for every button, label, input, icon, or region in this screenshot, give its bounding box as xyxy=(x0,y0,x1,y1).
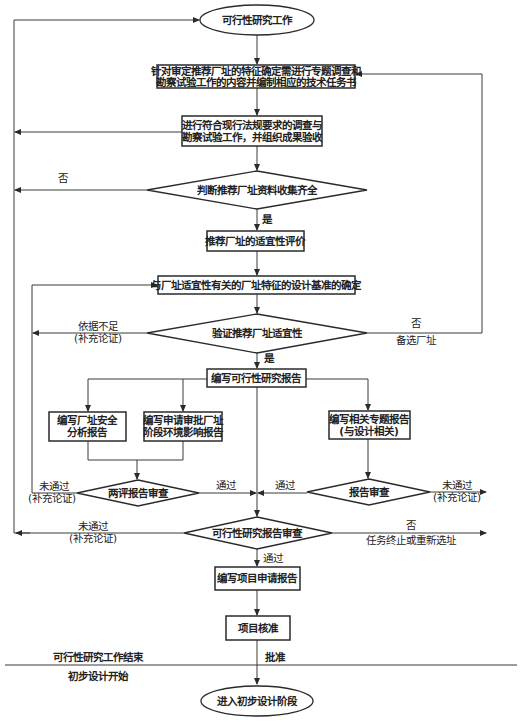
decision5-no-label: 否 xyxy=(406,519,417,531)
svg-text:两评报告审查: 两评报告审查 xyxy=(108,487,169,499)
svg-text:勘察试验工作，并组织成果验收: 勘察试验工作，并组织成果验收 xyxy=(182,131,323,143)
step1-box: 针对审定推荐厂址的特征确定需进行专题调查和 勘察试验工作的内容并编制相应的技术任… xyxy=(150,65,361,88)
svg-text:推荐厂址的适宜性评价: 推荐厂址的适宜性评价 xyxy=(205,235,306,247)
svg-text:可行性研究报告审查: 可行性研究报告审查 xyxy=(212,527,303,539)
svg-text:任务终止或重新选址: 任务终止或重新选址 xyxy=(366,534,457,546)
decision4-diamond: 报告审查 xyxy=(307,479,430,505)
decision2-diamond: 验证推荐厂址适宜性 xyxy=(147,314,367,353)
svg-text:与厂址适宜性有关的厂址特征的设计基准的确定: 与厂址适宜性有关的厂址特征的设计基准的确定 xyxy=(151,279,362,291)
decision1-no-label: 否 xyxy=(58,172,69,184)
svg-text:勘察试验工作的内容并编制相应的技术任务书: 勘察试验工作的内容并编制相应的技术任务书 xyxy=(156,76,357,88)
flowchart: 可行性研究工作 针对审定推荐厂址的特征确定需进行专题调查和 勘察试验工作的内容并… xyxy=(0,0,520,728)
decision2-right-label: 否 xyxy=(411,317,422,329)
step5-box: 编写可行性研究报告 xyxy=(207,369,306,387)
step7-box: 编写申请审批厂址 阶段环境影响报告 xyxy=(143,412,224,441)
svg-text:判断推荐厂址资料收集齐全: 判断推荐厂址资料收集齐全 xyxy=(197,184,318,196)
svg-text:验证推荐厂址适宜性: 验证推荐厂址适宜性 xyxy=(212,327,303,339)
step9-box: 编写项目申请报告 xyxy=(215,567,300,590)
decision1-yes-label: 是 xyxy=(261,213,273,225)
decision1-diamond: 判断推荐厂址资料收集齐全 xyxy=(147,171,367,209)
step6-box: 编写厂址安全 分析报告 xyxy=(49,412,126,441)
step10-box: 项目核准 xyxy=(226,616,290,640)
approve-label: 批准 xyxy=(265,651,286,663)
step2-box: 进行符合现行法规要求的调查与 勘察试验工作，并组织成果验收 xyxy=(182,116,323,146)
svg-text:报告审查: 报告审查 xyxy=(349,486,390,498)
decision4-fail-label: 未通过 xyxy=(442,479,473,491)
decision5-fail-label: 未通过 xyxy=(78,520,109,532)
svg-text:分析报告: 分析报告 xyxy=(67,426,108,438)
svg-text:(与设计相关): (与设计相关) xyxy=(339,425,399,437)
step8-box: 编写相关专题报告 (与设计相关) xyxy=(329,411,410,439)
decision3-diamond: 两评报告审查 xyxy=(77,480,199,506)
decision4-pass-label: 通过 xyxy=(275,479,296,491)
svg-text:编写项目申请报告: 编写项目申请报告 xyxy=(217,572,298,584)
svg-text:项目核准: 项目核准 xyxy=(238,622,279,634)
decision2-yes-label: 是 xyxy=(263,352,275,364)
svg-text:阶段环境影响报告: 阶段环境影响报告 xyxy=(143,426,224,438)
svg-text:编写可行性研究报告: 编写可行性研究报告 xyxy=(211,372,302,384)
phase-start-label: 初步设计开始 xyxy=(68,670,129,682)
decision3-fail-label: 未通过 xyxy=(39,480,70,492)
svg-text:(补充论证): (补充论证) xyxy=(433,491,481,503)
decision5-pass-label: 通过 xyxy=(263,552,284,564)
svg-text:编写申请审批厂址: 编写申请审批厂址 xyxy=(143,414,224,426)
svg-text:备选厂址: 备选厂址 xyxy=(396,334,437,346)
svg-text:进行符合现行法规要求的调查与: 进行符合现行法规要求的调查与 xyxy=(182,119,322,131)
phase-end-label: 可行性研究工作结束 xyxy=(53,651,144,663)
start-oval: 可行性研究工作 xyxy=(200,5,314,35)
svg-text:(补充论证): (补充论证) xyxy=(28,492,76,504)
svg-text:编写厂址安全: 编写厂址安全 xyxy=(57,414,118,426)
step4-box: 与厂址适宜性有关的厂址特征的设计基准的确定 xyxy=(151,276,362,294)
step3-box: 推荐厂址的适宜性评价 xyxy=(205,231,306,251)
svg-text:编写相关专题报告: 编写相关专题报告 xyxy=(329,413,410,425)
end-oval: 进入初步设计阶段 xyxy=(201,686,313,716)
decision3-pass-label: 通过 xyxy=(216,479,237,491)
svg-text:可行性研究工作: 可行性研究工作 xyxy=(222,14,293,26)
svg-text:(补充论证): (补充论证) xyxy=(74,332,122,344)
decision5-diamond: 可行性研究报告审查 xyxy=(184,517,332,549)
svg-text:进入初步设计阶段: 进入初步设计阶段 xyxy=(217,695,298,707)
svg-text:(补充论证): (补充论证) xyxy=(69,532,117,544)
decision2-left-label: 依据不足 xyxy=(78,320,119,332)
